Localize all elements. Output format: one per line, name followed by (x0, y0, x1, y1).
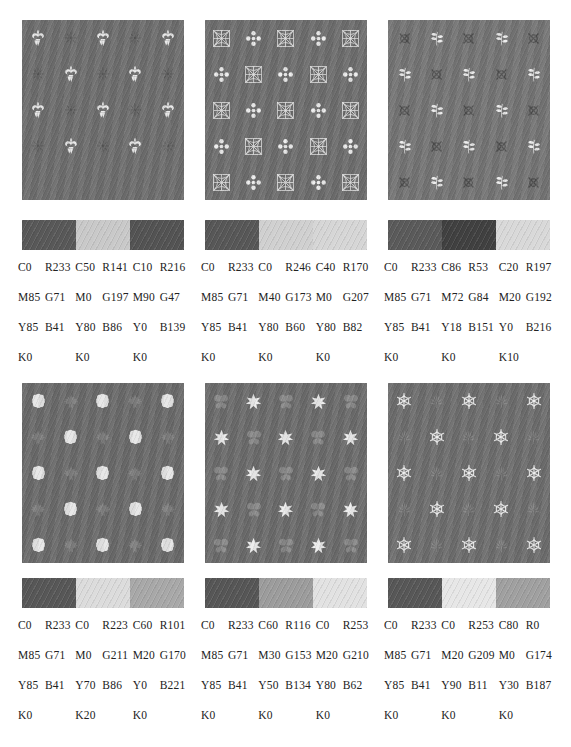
cmyk-y: Y0 (133, 680, 160, 692)
value-col: M90G47 (133, 292, 190, 304)
motif-cell (87, 92, 119, 128)
motif-cell (87, 383, 119, 419)
value-col: C0R233 (384, 262, 441, 274)
rgb-r: R253 (468, 620, 498, 632)
swatch-strip-1 (22, 220, 184, 250)
value-table-6: C0R233 C0R253 C80R0 M85G71 M20G209 M0G17… (384, 611, 556, 731)
motif-cell (453, 491, 485, 527)
motif-cell (420, 128, 452, 164)
value-row-k: K0 K20 K0 (18, 701, 190, 731)
cmyk-m: M0 (75, 292, 102, 304)
motif-cell (205, 491, 237, 527)
swatch-4-1 (22, 578, 76, 608)
motif-cell (270, 20, 302, 56)
cmyk-y: Y50 (258, 680, 285, 692)
motif-cell (302, 164, 334, 200)
value-table-5: C0R233 C60R116 C0R253 M85G71 M30G153 M20… (201, 611, 373, 731)
cmyk-k: K0 (201, 352, 228, 364)
motif-cell (302, 20, 334, 56)
rgb-b: B11 (468, 680, 498, 692)
pattern-swatch-5 (205, 383, 367, 563)
motif-cell (485, 455, 517, 491)
motif-cell (485, 419, 517, 455)
value-row-y: Y85B41 Y80B60 Y80B82 (201, 313, 373, 343)
motif-cell (485, 56, 517, 92)
cmyk-k: K0 (258, 710, 285, 722)
motif-cell (388, 491, 420, 527)
motif-cell (518, 419, 550, 455)
motif-cell (453, 383, 485, 419)
motif-grid-3 (388, 20, 550, 200)
motif-cell (453, 527, 485, 563)
rgb-b: B41 (45, 680, 75, 692)
value-row-y: Y85B41 Y70B86 Y0B221 (18, 671, 190, 701)
motif-cell (54, 128, 86, 164)
motif-cell (22, 419, 54, 455)
value-col: C20R197 (499, 262, 556, 274)
motif-cell (420, 419, 452, 455)
motif-cell (237, 455, 269, 491)
value-col: Y85B41 (384, 322, 441, 334)
rgb-r: R233 (45, 262, 75, 274)
cmyk-c: C0 (441, 620, 468, 632)
value-col: Y0B139 (133, 322, 190, 334)
value-row-k: K0 K0 K0 (384, 701, 556, 731)
motif-cell (518, 20, 550, 56)
value-col: K0 (384, 710, 441, 722)
value-col: C60R116 (258, 620, 315, 632)
motif-cell (388, 455, 420, 491)
swatch-6-3 (496, 578, 550, 608)
value-col: K0 (258, 710, 315, 722)
value-col: K10 (499, 352, 556, 364)
cmyk-c: C60 (258, 620, 285, 632)
motif-cell (119, 527, 151, 563)
rgb-g: G197 (102, 292, 132, 304)
value-col: C0R253 (441, 620, 498, 632)
motif-cell (518, 383, 550, 419)
motif-cell (270, 164, 302, 200)
motif-cell (205, 92, 237, 128)
motif-cell (420, 491, 452, 527)
value-col: C86R53 (441, 262, 498, 274)
motif-cell (453, 455, 485, 491)
cmyk-m: M40 (258, 292, 285, 304)
pattern-swatch-4 (22, 383, 184, 563)
cmyk-k: K20 (75, 710, 102, 722)
motif-cell (420, 20, 452, 56)
motif-cell (453, 164, 485, 200)
value-row-y: Y85B41 Y50B134 Y80B62 (201, 671, 373, 701)
motif-cell (335, 128, 367, 164)
motif-cell (302, 56, 334, 92)
swatch-6-2 (442, 578, 496, 608)
rgb-g: G173 (285, 292, 315, 304)
value-col: K20 (75, 710, 132, 722)
motif-cell (453, 20, 485, 56)
motif-cell (302, 455, 334, 491)
cmyk-c: C50 (75, 262, 102, 274)
motif-cell (420, 527, 452, 563)
value-col: Y80B82 (316, 322, 373, 334)
value-col: M85G71 (18, 650, 75, 662)
rgb-g: G71 (45, 292, 75, 304)
cmyk-k: K0 (75, 352, 102, 364)
value-row-m: M85G71 M30G153 M20G210 (201, 641, 373, 671)
swatch-sheet: C0R233 C50R141 C10R216 M85G71 M0G197 M90… (0, 0, 571, 747)
value-col: K0 (384, 352, 441, 364)
cmyk-k: K0 (133, 710, 160, 722)
value-col: Y50B134 (258, 680, 315, 692)
motif-cell (119, 491, 151, 527)
swatch-1-2 (76, 220, 130, 250)
value-col: M85G71 (384, 292, 441, 304)
pattern-swatch-6 (388, 383, 550, 563)
motif-cell (237, 419, 269, 455)
value-col: M0G207 (316, 292, 373, 304)
cmyk-k: K0 (201, 710, 228, 722)
motif-cell (119, 383, 151, 419)
cmyk-k: K0 (18, 710, 45, 722)
cmyk-y: Y80 (316, 680, 343, 692)
cmyk-c: C0 (316, 620, 343, 632)
value-col: C60R101 (133, 620, 190, 632)
motif-cell (453, 419, 485, 455)
cmyk-m: M85 (201, 650, 228, 662)
motif-cell (119, 56, 151, 92)
